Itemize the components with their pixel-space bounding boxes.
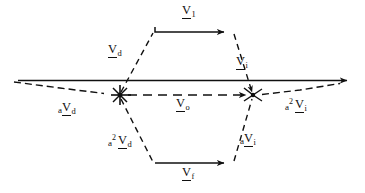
label-a2-vd-subscript: d [128, 140, 132, 149]
label-a2-vi-subscript: i [305, 104, 307, 113]
label-vf: Vf [182, 166, 194, 181]
label-v1: V1 [182, 4, 195, 19]
left-dashed-tail [14, 82, 104, 94]
label-vi: Vi [236, 55, 247, 70]
label-a-vd: aVd [58, 101, 75, 116]
left-node-starburst [111, 85, 131, 105]
label-a2-vd-symbol: V [118, 134, 127, 149]
label-a2-vi-symbol: V [295, 98, 304, 113]
lower-left-leg [121, 99, 153, 162]
label-vf-subscript: f [192, 172, 195, 181]
label-vf-symbol: V [182, 166, 191, 181]
label-a2-vi: a2Vi [285, 98, 306, 113]
label-a2-vd: a2Vd [108, 134, 131, 149]
label-v1-symbol: V [182, 4, 191, 19]
label-v1-subscript: 1 [192, 10, 196, 19]
label-vd-symbol: V [108, 43, 117, 58]
v1-arrow [155, 27, 224, 32]
label-vi-subscript: i [246, 61, 248, 70]
label-vo: Vo [176, 97, 189, 112]
label-vo-subscript: o [186, 103, 190, 112]
label-vo-symbol: V [176, 97, 185, 112]
label-a-vd-symbol: V [62, 101, 71, 116]
lower-right-leg [234, 99, 252, 161]
right-node-convergence [244, 88, 262, 101]
label-a2-vi-superscript: 2 [289, 98, 293, 106]
label-a-vi-subscript: i [254, 138, 256, 147]
label-a-vi-symbol: V [244, 132, 253, 147]
label-a2-vd-superscript: 2 [112, 134, 116, 142]
label-a-vi: aVi [240, 132, 255, 147]
label-vi-symbol: V [236, 55, 245, 70]
label-vd-subscript: d [118, 49, 122, 58]
label-vd: Vd [108, 43, 121, 58]
right-dashed-tail [262, 84, 340, 95]
upper-left-leg [121, 33, 153, 92]
label-a-vd-subscript: d [72, 107, 76, 116]
vector-diagram-figure: V1 Vd Vi Vo Vf aVd a2Vi a2Vd aVi [0, 0, 365, 193]
